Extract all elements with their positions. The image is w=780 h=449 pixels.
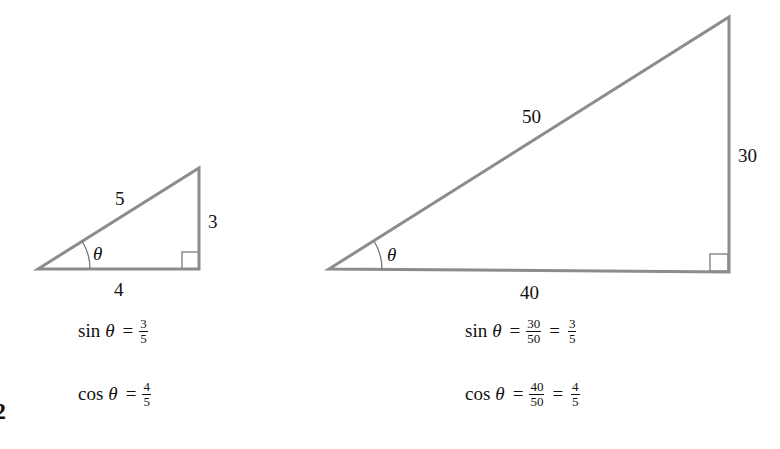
fraction: 3 5 — [568, 317, 577, 345]
small-sin-equation: sin θ = 3 5 — [78, 317, 148, 345]
equals: = — [552, 383, 563, 405]
equals: = — [510, 320, 521, 342]
small-opposite-label: 3 — [208, 212, 218, 231]
fn-name: cos — [465, 383, 490, 405]
equals: = — [513, 383, 524, 405]
fraction: 4 5 — [571, 380, 580, 408]
numerator: 4 — [142, 380, 151, 395]
fraction: 3 5 — [139, 317, 148, 345]
small-angle-arc-icon — [82, 241, 90, 269]
fraction: 4 5 — [142, 380, 151, 408]
figure-number: 2 — [0, 398, 6, 425]
theta: θ — [492, 320, 501, 342]
numerator: 3 — [139, 317, 148, 332]
theta: θ — [495, 383, 504, 405]
small-adjacent-label: 4 — [114, 280, 124, 299]
fraction: 40 50 — [529, 380, 544, 408]
denominator: 5 — [569, 332, 576, 346]
small-theta-label: θ — [93, 244, 102, 263]
fn-name: cos — [78, 383, 103, 405]
denominator: 5 — [572, 395, 579, 409]
theta: θ — [105, 320, 114, 342]
denominator: 50 — [530, 395, 543, 409]
theta: θ — [108, 383, 117, 405]
large-triangle — [329, 17, 729, 272]
numerator: 30 — [526, 317, 541, 332]
large-opposite-label: 30 — [738, 146, 757, 165]
denominator: 50 — [527, 332, 540, 346]
small-cos-equation: cos θ = 4 5 — [78, 380, 151, 408]
large-theta-label: θ — [387, 245, 396, 264]
numerator: 40 — [529, 380, 544, 395]
large-angle-arc-icon — [374, 241, 382, 270]
large-adjacent-label: 40 — [520, 283, 539, 302]
numerator: 4 — [571, 380, 580, 395]
equals: = — [126, 383, 137, 405]
fraction: 30 50 — [526, 317, 541, 345]
small-hypotenuse-label: 5 — [115, 189, 125, 208]
equals: = — [549, 320, 560, 342]
small-triangle — [38, 168, 199, 269]
large-hypotenuse-label: 50 — [522, 107, 541, 126]
large-sin-equation: sin θ = 30 50 = 3 5 — [465, 317, 576, 345]
large-right-angle-icon — [710, 254, 728, 271]
fn-name: sin — [465, 320, 487, 342]
numerator: 3 — [568, 317, 577, 332]
equals: = — [123, 320, 134, 342]
large-cos-equation: cos θ = 40 50 = 4 5 — [465, 380, 580, 408]
denominator: 5 — [143, 395, 150, 409]
fn-name: sin — [78, 320, 100, 342]
small-right-angle-icon — [182, 252, 199, 269]
denominator: 5 — [140, 332, 147, 346]
